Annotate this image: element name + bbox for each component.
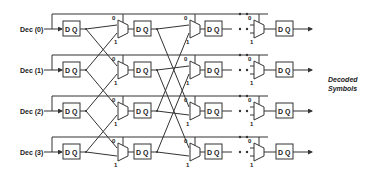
- register-label: D Q: [207, 108, 220, 116]
- mux-label-0: 0: [112, 15, 116, 21]
- mux-label-0: 0: [248, 138, 252, 144]
- mux: [190, 20, 200, 38]
- mux-label-1: 1: [186, 162, 190, 168]
- mux: [190, 143, 200, 161]
- input-label: Dec (1): [20, 67, 43, 75]
- mux: [118, 143, 128, 161]
- mux: [254, 61, 264, 79]
- register-label: D Q: [207, 67, 220, 75]
- row-2: Dec (2)D QD QD QD Q010101: [20, 95, 312, 127]
- mux: [254, 143, 264, 161]
- register-label: D Q: [278, 108, 291, 116]
- input-label: Dec (0): [20, 26, 43, 34]
- mux-label-0: 0: [248, 56, 252, 62]
- register-label: D Q: [136, 149, 149, 157]
- mux-label-1: 1: [114, 80, 118, 86]
- mux-label-1: 1: [114, 121, 118, 127]
- register-label: D Q: [65, 108, 78, 116]
- register-label: D Q: [65, 149, 78, 157]
- output-label-symbols: Symbols: [328, 85, 357, 93]
- mux: [118, 102, 128, 120]
- mux-label-1: 1: [114, 162, 118, 168]
- row-0: Dec (0)D QD QD QD Q010101: [20, 13, 312, 45]
- mux-label-0: 0: [184, 15, 188, 21]
- register-label: D Q: [278, 67, 291, 75]
- decoder-pipeline-diagram: Dec (0)D QD QD QD Q010101Dec (1)D QD QD …: [0, 0, 366, 172]
- mux-label-0: 0: [248, 15, 252, 21]
- register-label: D Q: [65, 67, 78, 75]
- mux: [118, 20, 128, 38]
- mux-label-0: 0: [184, 56, 188, 62]
- mux-label-1: 1: [114, 39, 118, 45]
- mux-label-1: 1: [250, 162, 254, 168]
- mux: [254, 102, 264, 120]
- input-label: Dec (3): [20, 149, 43, 157]
- mux-label-1: 1: [250, 80, 254, 86]
- register-label: D Q: [207, 149, 220, 157]
- register-label: D Q: [136, 26, 149, 34]
- register-label: D Q: [65, 26, 78, 34]
- row-1: Dec (1)D QD QD QD Q010101: [20, 54, 312, 86]
- register-label: D Q: [278, 149, 291, 157]
- register-label: D Q: [278, 26, 291, 34]
- register-label: D Q: [136, 67, 149, 75]
- mux: [118, 61, 128, 79]
- input-label: Dec (2): [20, 108, 43, 116]
- mux-label-0: 0: [248, 97, 252, 103]
- mux-label-1: 1: [250, 39, 254, 45]
- row-3: Dec (3)D QD QD QD Q010101: [20, 136, 312, 168]
- output-label-decoded: Decoded: [328, 76, 358, 83]
- register-label: D Q: [136, 108, 149, 116]
- mux: [190, 102, 200, 120]
- register-label: D Q: [207, 26, 220, 34]
- mux-label-1: 1: [186, 121, 190, 127]
- mux-label-1: 1: [250, 121, 254, 127]
- mux: [190, 61, 200, 79]
- mux: [254, 20, 264, 38]
